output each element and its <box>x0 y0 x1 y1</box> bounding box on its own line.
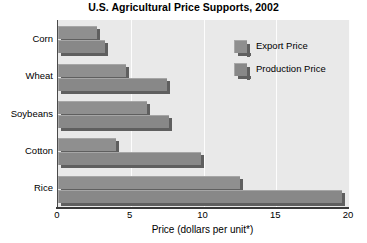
bar-body <box>58 26 97 39</box>
legend-item-export-price[interactable]: Export Price <box>234 38 354 58</box>
bar-cotton-export-price <box>58 138 116 151</box>
legend-swatch <box>234 40 247 53</box>
legend-label: Export Price <box>256 40 308 51</box>
x-tick-5: 5 <box>118 209 142 220</box>
bar-body <box>58 176 240 189</box>
legend-swatch-shadow-bottom <box>238 53 251 56</box>
y-axis-label-soybeans: Soybeans <box>0 108 53 119</box>
x-tick-15: 15 <box>263 209 287 220</box>
x-axis-tick-labels: 05101520 <box>0 209 367 223</box>
chart-legend: Export PriceProduction Price <box>234 38 354 84</box>
bar-rice-export-price <box>58 176 240 189</box>
y-axis-label-corn: Corn <box>0 33 53 44</box>
bar-rice-production-price <box>58 190 342 203</box>
bar-shadow-bottom <box>61 128 172 131</box>
bar-body <box>58 190 342 203</box>
x-tick-10: 10 <box>191 209 215 220</box>
x-axis-title: Price (dollars per unit*) <box>57 224 348 235</box>
bar-shadow-bottom <box>61 91 170 94</box>
bar-shadow-bottom <box>61 53 108 56</box>
bar-shadow-bottom <box>61 165 204 168</box>
bar-group-soybeans <box>58 95 349 132</box>
bar-body <box>58 78 167 91</box>
chart-title: U.S. Agricultural Price Supports, 2002 <box>0 1 367 13</box>
bar-soybeans-production-price <box>58 115 169 128</box>
bar-corn-export-price <box>58 26 97 39</box>
bar-group-cotton <box>58 132 349 169</box>
bar-body <box>58 152 201 165</box>
legend-swatch <box>234 63 247 76</box>
y-axis-category-labels: CornWheatSoybeansCottonRice <box>0 20 53 207</box>
bar-corn-production-price <box>58 40 105 53</box>
bar-wheat-production-price <box>58 78 167 91</box>
x-tick-0: 0 <box>45 209 69 220</box>
bar-body <box>58 138 116 151</box>
bar-soybeans-export-price <box>58 101 147 114</box>
bar-body <box>58 40 105 53</box>
x-tick-20: 20 <box>336 209 360 220</box>
y-axis-label-rice: Rice <box>0 182 53 193</box>
bar-body <box>58 115 169 128</box>
y-axis-label-cotton: Cotton <box>0 145 53 156</box>
bar-body <box>58 101 147 114</box>
legend-item-production-price[interactable]: Production Price <box>234 61 354 81</box>
bar-cotton-production-price <box>58 152 201 165</box>
y-axis-label-wheat: Wheat <box>0 70 53 81</box>
bar-wheat-export-price <box>58 64 126 77</box>
bar-shadow-bottom <box>61 203 345 206</box>
chart-container: U.S. Agricultural Price Supports, 2002 C… <box>0 0 367 243</box>
legend-swatch-shadow-bottom <box>238 76 251 79</box>
bar-group-rice <box>58 170 349 207</box>
bar-body <box>58 64 126 77</box>
legend-label: Production Price <box>256 63 326 74</box>
